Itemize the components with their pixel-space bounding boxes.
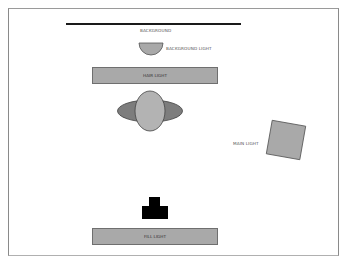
camera-body	[142, 206, 168, 219]
fill-light-label: FILL LIGHT	[144, 234, 166, 239]
fill-light-bar: FILL LIGHT	[92, 228, 218, 245]
hair-light-bar: HAIR LIGHT	[92, 67, 218, 84]
subject-head	[135, 91, 165, 131]
hair-light-label: HAIR LIGHT	[143, 73, 167, 78]
camera-top	[149, 197, 160, 207]
background-light-shape	[139, 43, 163, 55]
main-light-label: MAIN LIGHT	[233, 141, 259, 146]
background-light-label: BACKGROUND LIGHT	[166, 46, 212, 51]
main-light-shape	[266, 120, 305, 159]
diagram-shapes	[0, 0, 348, 257]
